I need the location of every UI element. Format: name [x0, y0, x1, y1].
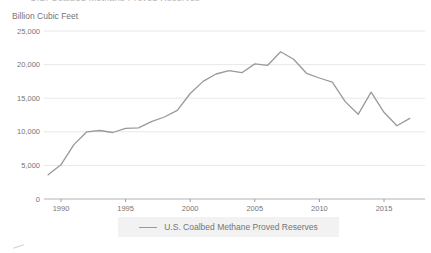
- x-tick-label: 1990: [53, 204, 70, 213]
- x-tick-label: 2015: [376, 204, 393, 213]
- y-tick-label: 0: [36, 195, 40, 204]
- x-tick-label: 2005: [246, 204, 263, 213]
- y-tick-label: 20,000: [17, 60, 40, 69]
- y-tick-label: 25,000: [17, 27, 40, 36]
- series-line: [48, 52, 410, 175]
- legend[interactable]: U.S. Coalbed Methane Proved Reserves: [118, 217, 339, 237]
- chart-container: U.S. Coalbed Methane Proved Reserves Bil…: [0, 0, 431, 253]
- y-tick-label: 5,000: [21, 161, 40, 170]
- x-tick-label: 2000: [182, 204, 199, 213]
- x-tick-label: 2010: [311, 204, 328, 213]
- y-tick-label: 15,000: [17, 94, 40, 103]
- legend-line-sample-icon: [139, 227, 157, 228]
- x-tick-label: 1995: [117, 204, 134, 213]
- y-tick-label: 10,000: [17, 127, 40, 136]
- line-chart-canvas: 25,00020,00015,00010,0005,00001990199520…: [0, 0, 431, 253]
- legend-label: U.S. Coalbed Methane Proved Reserves: [164, 222, 318, 232]
